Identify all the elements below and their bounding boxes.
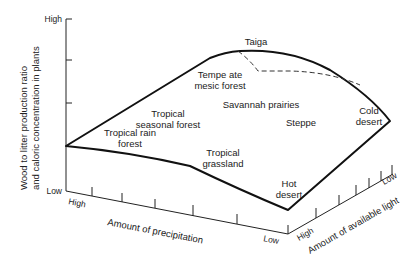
- label-tropical-grassland-1: Tropical: [206, 147, 239, 158]
- label-tropical-seasonal-1: Tropical: [151, 108, 184, 119]
- label-temperate-1: Tempe ate: [198, 69, 242, 80]
- x-axis-line: [66, 191, 288, 234]
- x-axis-low: Low: [263, 233, 281, 246]
- z-axis-low: Low: [380, 170, 399, 187]
- label-steppe: Steppe: [286, 117, 316, 128]
- label-taiga: Taiga: [245, 36, 268, 47]
- label-tropical-rain-2: forest: [118, 138, 142, 149]
- y-axis-label-line2: and caloric concentration in plants: [30, 46, 41, 190]
- x-axis-high: High: [68, 196, 87, 209]
- label-temperate-2: mesic forest: [194, 80, 246, 91]
- label-savannah: Savannah prairies: [223, 99, 300, 110]
- label-hot-desert-2: desert: [276, 189, 303, 200]
- label-hot-desert-1: Hot: [282, 178, 297, 189]
- z-axis-label: Amount of available light: [306, 194, 401, 255]
- biome-diagram: High Low Wood to litter production ratio…: [0, 0, 417, 265]
- label-tropical-grassland-2: grassland: [202, 158, 243, 169]
- label-cold-desert-2: desert: [356, 116, 383, 127]
- y-axis-high: High: [45, 14, 63, 24]
- y-axis-label-line1: Wood to litter production ratio: [18, 66, 29, 190]
- label-tropical-rain-1: Tropical rain: [104, 127, 156, 138]
- label-cold-desert-1: Cold: [359, 105, 379, 116]
- y-axis-low: Low: [46, 186, 62, 196]
- x-axis-label: Amount of precipitation: [107, 216, 204, 245]
